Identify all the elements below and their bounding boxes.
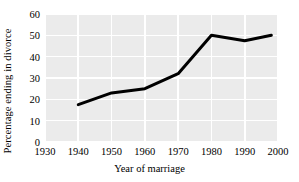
y-tick-label: 10 [14, 115, 40, 126]
x-tick-label: 1930 [25, 146, 65, 157]
y-tick-label: 40 [14, 51, 40, 62]
y-tick-label: 20 [14, 94, 40, 105]
y-tick-label: 50 [14, 30, 40, 41]
y-tick-label: 30 [14, 73, 40, 84]
x-axis-title: Year of marriage [0, 163, 299, 174]
plot-area [45, 14, 278, 142]
y-tick-label: 60 [14, 9, 40, 20]
x-tick-label: 1990 [225, 146, 265, 157]
x-tick-label: 2000 [258, 146, 298, 157]
line-chart-figure: Percentage ending in divorce 01020304050… [0, 0, 299, 182]
x-tick-label: 1960 [125, 146, 165, 157]
x-tick-label: 1950 [92, 146, 132, 157]
x-tick-label: 1970 [158, 146, 198, 157]
x-tick-label: 1940 [58, 146, 98, 157]
y-tick-label: 0 [14, 137, 40, 148]
x-tick-label: 1980 [191, 146, 231, 157]
data-line [45, 14, 278, 142]
y-axis-title: Percentage ending in divorce [0, 0, 14, 182]
